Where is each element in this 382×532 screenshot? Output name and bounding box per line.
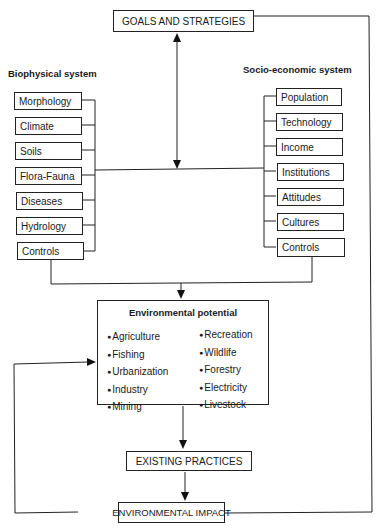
bio-item-morphology: Morphology bbox=[14, 92, 82, 110]
bio-item-soils: Soils bbox=[15, 142, 82, 160]
bio-item-controls: Controls bbox=[17, 242, 84, 260]
potential-item: Agriculture bbox=[107, 328, 168, 346]
socio-item-income: Income bbox=[276, 138, 343, 156]
socio-item-institutions: Institutions bbox=[277, 163, 344, 181]
potential-item: Forestry bbox=[199, 361, 253, 379]
goals-and-strategies-box: GOALS AND STRATEGIES bbox=[113, 10, 254, 32]
biophysical-heading: Biophysical system bbox=[8, 68, 97, 79]
potential-item: Livestock bbox=[199, 396, 253, 414]
potential-item: Wildlife bbox=[199, 344, 253, 362]
potential-item: Fishing bbox=[107, 346, 168, 364]
potential-item: Mining bbox=[107, 398, 168, 416]
potential-item: Industry bbox=[107, 381, 168, 399]
potential-right-list: Recreation Wildlife Forestry Electricity… bbox=[199, 326, 253, 414]
potential-left-list: Agriculture Fishing Urbanization Industr… bbox=[107, 328, 168, 416]
socio-item-controls: Controls bbox=[277, 238, 345, 257]
bio-item-flora-fauna: Flora-Fauna bbox=[15, 167, 82, 185]
socio-item-cultures: Cultures bbox=[277, 213, 344, 231]
potential-item: Urbanization bbox=[107, 363, 168, 381]
bio-item-diseases: Diseases bbox=[16, 192, 83, 210]
bio-item-climate: Climate bbox=[15, 117, 82, 135]
existing-practices-box: EXISTING PRACTICES bbox=[126, 451, 252, 471]
socio-item-attitudes: Attitudes bbox=[277, 188, 344, 206]
environmental-impact-box: ENVIRONMENTAL IMPACT bbox=[118, 502, 225, 523]
environmental-potential-box: Environmental potential Agriculture Fish… bbox=[97, 300, 269, 405]
environmental-potential-title: Environmental potential bbox=[98, 307, 268, 318]
potential-item: Recreation bbox=[199, 326, 253, 344]
bio-item-hydrology: Hydrology bbox=[16, 217, 83, 235]
potential-item: Electricity bbox=[199, 379, 253, 397]
socio-item-technology: Technology bbox=[276, 113, 343, 131]
socioeconomic-heading: Socio-economic system bbox=[243, 64, 352, 75]
socio-item-population: Population bbox=[276, 88, 342, 106]
